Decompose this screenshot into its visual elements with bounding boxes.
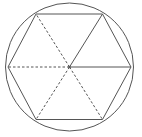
spoke-top-left [36, 14, 70, 67]
hexagon-in-circle-diagram [0, 0, 142, 137]
spoke-top-right [70, 14, 103, 67]
spoke-bottom-left [36, 67, 70, 120]
spoke-bottom-right [70, 67, 103, 120]
center-point [68, 66, 70, 68]
